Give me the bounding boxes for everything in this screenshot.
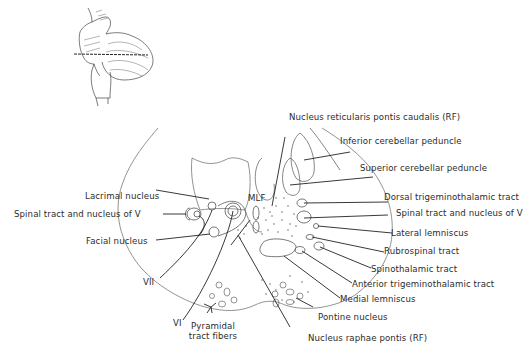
inset-brainstem-icon: [74, 8, 153, 106]
nuclei: [186, 199, 325, 257]
label-superior-cerebellar-peduncle: Superior cerebellar peduncle: [360, 163, 487, 173]
label-inferior-cerebellar-peduncle: Inferior cerebellar peduncle: [340, 136, 462, 146]
label-lateral-lemniscus: Lateral lemniscus: [391, 228, 468, 238]
label-pontine-nucleus: Pontine nucleus: [318, 312, 388, 322]
label-spinal-tract-nucleus-v-right: Spinal tract and nucleus of V: [396, 208, 523, 218]
label-pyramidal-line2: tract fibers: [188, 331, 238, 341]
label-facial-nucleus: Facial nucleus: [86, 236, 148, 246]
label-mlf: MLF: [248, 193, 265, 203]
cerebellar-peduncles: [255, 128, 340, 200]
label-nucleus-raphae-pontis: Nucleus raphae pontis (RF): [308, 333, 427, 343]
label-nucleus-reticularis-pontis-caudalis: Nucleus reticularis pontis caudalis (RF): [289, 112, 460, 122]
label-spinal-tract-nucleus-v-left: Spinal tract and nucleus of V: [14, 209, 141, 219]
pons-cross-section-diagram: [0, 0, 529, 355]
label-spinothalamic-tract: Spinothalamic tract: [371, 264, 457, 274]
label-nerve-vi: VI: [173, 318, 182, 328]
label-anterior-trigeminothalamic-tract: Anterior trigeminothalamic tract: [352, 279, 494, 289]
label-dorsal-trigeminothalamic-tract: Dorsal trigeminothalamic tract: [384, 192, 519, 202]
label-lacrimal-nucleus: Lacrimal nucleus: [85, 191, 159, 201]
label-nerve-vii: VII: [143, 277, 154, 287]
label-pyramidal-tract-fibers: Pyramidal tract fibers: [188, 321, 238, 341]
pontine-nuclei: [210, 282, 304, 307]
pyramidal-fiber-mark: [204, 303, 216, 313]
label-rubrospinal-tract: Rubrospinal tract: [384, 246, 459, 256]
reticular-dots: [237, 197, 308, 302]
label-pyramidal-line1: Pyramidal: [188, 321, 238, 331]
label-medial-lemniscus: Medial lemniscus: [340, 294, 416, 304]
